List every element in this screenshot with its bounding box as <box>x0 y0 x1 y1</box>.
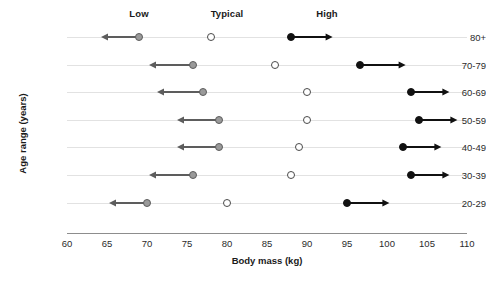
x-tick-label-100: 100 <box>379 238 395 249</box>
arrow-high-20-29 <box>347 197 389 209</box>
marker-typical-30-39 <box>287 171 295 179</box>
x-tick-label-80: 80 <box>222 238 233 249</box>
marker-low-70-79 <box>189 61 197 69</box>
marker-typical-50-59 <box>303 116 311 124</box>
plot-area <box>0 0 486 283</box>
marker-high-50-59 <box>415 116 423 124</box>
marker-low-50-59 <box>215 116 223 124</box>
row-guide-line <box>67 120 467 121</box>
x-tick-label-85: 85 <box>262 238 273 249</box>
marker-typical-40-49 <box>295 143 303 151</box>
arrow-high-80+ <box>291 31 333 43</box>
marker-high-70-79 <box>356 61 364 69</box>
marker-typical-80+ <box>207 33 215 41</box>
y-tick-label-50-59: 50-59 <box>428 114 486 125</box>
arrow-low-20-29 <box>109 197 147 209</box>
x-tick-label-65: 65 <box>102 238 113 249</box>
x-tick-label-70: 70 <box>142 238 153 249</box>
x-tick-label-75: 75 <box>182 238 193 249</box>
x-tick-label-95: 95 <box>342 238 353 249</box>
y-tick-label-70-79: 70-79 <box>428 59 486 70</box>
marker-low-60-69 <box>199 88 207 96</box>
arrow-low-70-79 <box>149 59 193 71</box>
marker-low-30-39 <box>189 171 197 179</box>
y-tick-label-20-29: 20-29 <box>428 197 486 208</box>
marker-high-80+ <box>287 33 295 41</box>
marker-typical-60-69 <box>303 88 311 96</box>
x-tick-label-90: 90 <box>302 238 313 249</box>
y-tick-label-30-39: 30-39 <box>428 170 486 181</box>
arrow-low-50-59 <box>177 114 219 126</box>
row-guide-line <box>67 65 467 66</box>
arrow-low-40-49 <box>177 141 219 153</box>
column-header-high: High <box>316 8 338 19</box>
arrow-low-30-39 <box>149 169 193 181</box>
y-tick-label-80+: 80+ <box>428 32 486 43</box>
x-tick-label-110: 110 <box>459 238 474 249</box>
marker-high-60-69 <box>407 88 415 96</box>
marker-high-20-29 <box>343 199 351 207</box>
arrow-low-80+ <box>101 31 139 43</box>
marker-low-20-29 <box>143 199 151 207</box>
x-tick-label-105: 105 <box>419 238 435 249</box>
arrow-high-70-79 <box>360 59 406 71</box>
arrow-low-60-69 <box>157 86 203 98</box>
y-tick-label-60-69: 60-69 <box>428 87 486 98</box>
x-axis-line <box>67 233 467 234</box>
y-tick-label-40-49: 40-49 <box>428 142 486 153</box>
marker-low-40-49 <box>215 143 223 151</box>
y-axis-title: Age range (years) <box>17 64 28 204</box>
marker-high-40-49 <box>399 143 407 151</box>
body-mass-age-chart: LowTypicalHigh 80+70-7960-6950-5940-4930… <box>0 0 486 283</box>
x-tick-label-60: 60 <box>62 238 73 249</box>
column-header-low: Low <box>129 8 148 19</box>
marker-typical-20-29 <box>223 199 231 207</box>
column-header-typical: Typical <box>211 8 244 19</box>
marker-high-30-39 <box>407 171 415 179</box>
marker-typical-70-79 <box>271 61 279 69</box>
marker-low-80+ <box>135 33 143 41</box>
x-axis-title: Body mass (kg) <box>67 255 467 266</box>
